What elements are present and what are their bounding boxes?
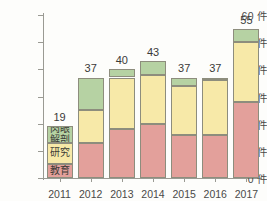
x-axis-tick-mark <box>122 178 123 182</box>
bar-segment-教育 <box>233 102 259 178</box>
bar-group: 40 <box>109 15 135 178</box>
y-axis-tick-mark <box>38 15 43 16</box>
x-axis-tick-mark <box>153 178 154 182</box>
bar-segment-研究 <box>171 86 197 135</box>
bar-segment-教育 <box>109 129 135 178</box>
bar-segment-研究 <box>109 78 135 130</box>
y-axis-tick-mark <box>38 42 43 43</box>
bar-segment-教育: 教育 <box>47 164 73 178</box>
bar-segment-教育 <box>140 124 166 178</box>
x-axis-tick-mark <box>215 178 216 182</box>
bar-group: 43 <box>140 15 166 178</box>
legend-label-肉眼解剖: 肉眼 解剖 <box>50 126 69 142</box>
x-axis-tick-label: 2014 <box>141 188 164 200</box>
bar-segment-肉眼解剖: 肉眼 解剖 <box>47 126 73 142</box>
x-axis-tick-label: 2011 <box>48 188 71 200</box>
bar-total-label: 40 <box>116 54 128 66</box>
x-axis-tick-mark <box>91 178 92 182</box>
bar-group: 55 <box>233 15 259 178</box>
bar-segment-肉眼解剖 <box>233 29 259 43</box>
y-axis-tick-mark <box>38 69 43 70</box>
bar-total-label: 55 <box>240 14 252 26</box>
bar-segment-研究 <box>233 42 259 102</box>
bar-segment-研究: 研究 <box>47 143 73 165</box>
bar-total-label: 43 <box>147 46 159 58</box>
bar-segment-研究 <box>140 75 166 124</box>
y-axis-tick-mark <box>38 178 43 179</box>
x-axis-tick-mark <box>246 178 247 182</box>
y-axis-tick-mark <box>38 124 43 125</box>
bar-group: 37 <box>171 15 197 178</box>
bar-segment-肉眼解剖 <box>78 78 104 111</box>
bar-segment-肉眼解剖 <box>171 78 197 86</box>
x-axis-tick-label: 2017 <box>235 188 258 200</box>
bar-segment-肉眼解剖 <box>109 69 135 77</box>
bar-segment-研究 <box>202 80 228 134</box>
y-axis-tick-mark <box>38 97 43 98</box>
bar-segment-肉眼解剖 <box>140 61 166 75</box>
legend-label-研究: 研究 <box>50 148 69 158</box>
bar-segment-研究 <box>78 110 104 143</box>
bar-total-label: 37 <box>178 62 190 74</box>
bar-group: 37 <box>78 15 104 178</box>
bar-group: 教育研究肉眼 解剖19 <box>47 15 73 178</box>
x-axis-tick-mark <box>60 178 61 182</box>
bar-total-label: 19 <box>53 111 65 123</box>
x-axis-tick-label: 2013 <box>110 188 133 200</box>
x-axis-tick-mark <box>184 178 185 182</box>
bar-segment-肉眼解剖 <box>202 78 228 81</box>
stacked-bar-chart: 0 件10 件20 件30 件40 件50 件60 件 201120122013… <box>0 0 267 201</box>
bar-total-label: 37 <box>209 62 221 74</box>
x-axis-tick-label: 2016 <box>204 188 227 200</box>
y-axis-line <box>43 13 44 180</box>
bar-segment-教育 <box>78 143 104 178</box>
x-axis-tick-label: 2015 <box>172 188 195 200</box>
x-axis-tick-label: 2012 <box>79 188 102 200</box>
legend-label-教育: 教育 <box>50 166 69 176</box>
bar-total-label: 37 <box>85 62 97 74</box>
y-axis-tick-mark <box>38 151 43 152</box>
bar-segment-教育 <box>171 135 197 178</box>
bar-group: 37 <box>202 15 228 178</box>
bar-segment-教育 <box>202 135 228 178</box>
